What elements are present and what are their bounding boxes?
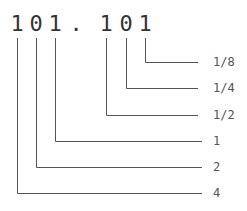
place-value-labels: 1/8 1/4 1/2 1 2 4 [213,55,235,200]
connector-one [56,38,203,142]
label-two: 2 [213,160,220,174]
label-four: 4 [213,186,220,200]
connector-half [107,38,199,116]
connector-quarter [127,38,199,89]
binary-place-value-diagram: 1 0 1 . 1 0 1 1/8 1/4 1/2 1 2 4 [0,0,247,211]
label-one: 1 [213,134,220,148]
digit-6: 1 [138,11,151,36]
digit-4: 1 [99,11,112,36]
connector-two [37,38,203,168]
digit-0: 1 [10,11,23,36]
binary-point: . [69,11,82,36]
label-quarter: 1/4 [213,81,235,95]
digit-2: 1 [48,11,61,36]
digit-5: 0 [119,11,132,36]
label-half: 1/2 [213,108,235,122]
label-eighth: 1/8 [213,55,235,69]
connector-lines [18,38,203,194]
digits: 1 0 1 . 1 0 1 [10,11,151,36]
digit-1: 0 [29,11,42,36]
connector-eighth [146,38,199,63]
